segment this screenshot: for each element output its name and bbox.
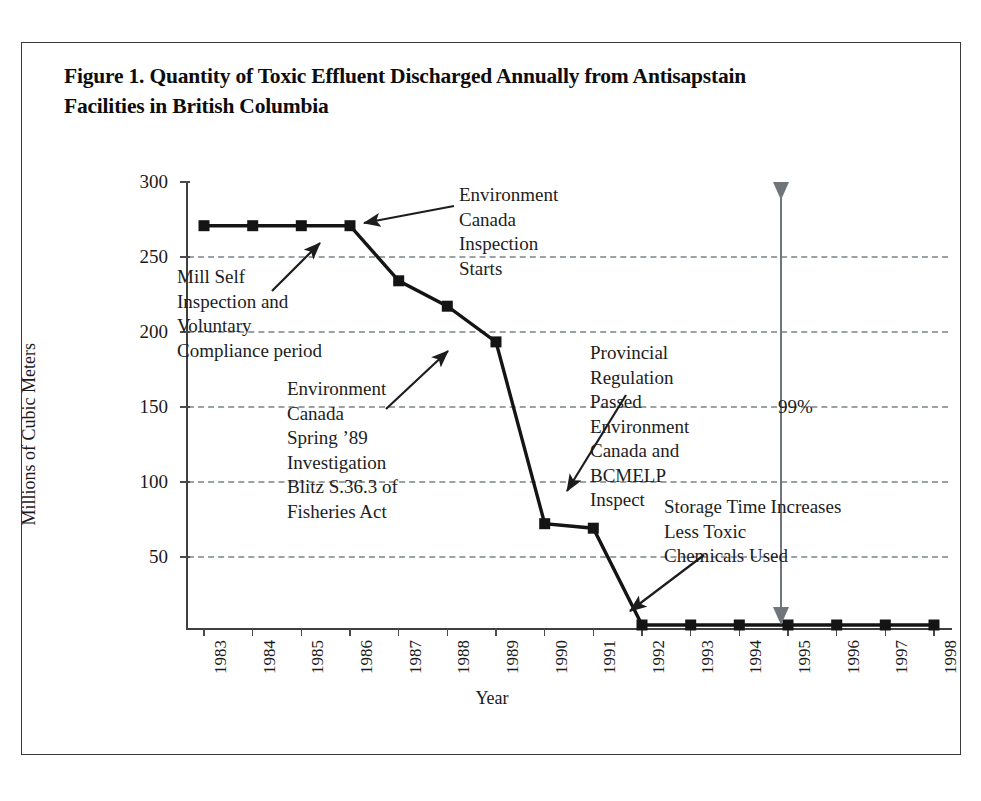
data-point-1991	[588, 523, 599, 534]
data-point-1996	[831, 620, 842, 631]
data-point-1992	[637, 620, 648, 631]
annotation-provincial-regulation: Provincial Regulation Passed Environment…	[590, 341, 689, 513]
data-point-1985	[296, 220, 307, 231]
data-point-1994	[734, 620, 745, 631]
data-point-1990	[539, 518, 550, 529]
data-point-1987	[393, 275, 404, 286]
annotation-environment-canada-spring-89: Environment Canada Spring ’89 Investigat…	[287, 377, 398, 524]
data-point-1998	[929, 620, 940, 631]
figure-frame: Figure 1. Quantity of Toxic Effluent Dis…	[21, 42, 961, 755]
annotation-environment-canada-inspection: Environment Canada Inspection Starts	[459, 183, 558, 281]
data-point-1986	[345, 220, 356, 231]
annotation-percent-reduction: 99%	[778, 396, 813, 418]
chart-plot-area: 300 250 200 150 100 50 Millions of Cubic…	[22, 43, 962, 756]
data-point-1989	[491, 336, 502, 347]
data-point-1984	[247, 220, 258, 231]
data-point-1993	[685, 620, 696, 631]
data-point-1988	[442, 301, 453, 312]
data-point-1983	[199, 220, 210, 231]
arrow-ec-inspection	[364, 206, 454, 223]
data-point-1997	[880, 620, 891, 631]
annotation-mill-self: Mill Self Inspection and Voluntary Compl…	[177, 265, 322, 363]
annotation-storage-time: Storage Time Increases Less Toxic Chemic…	[664, 495, 841, 569]
series-layer	[22, 43, 962, 756]
data-point-1995	[783, 620, 794, 631]
